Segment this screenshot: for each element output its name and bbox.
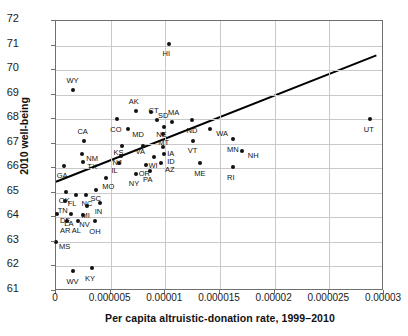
- gridline-horizontal: [56, 95, 382, 96]
- plot-area: HIWYAKSDMACTCONDWAMDNEMTCAVTMNUTNHKSVAIA…: [55, 20, 383, 290]
- data-point: [74, 193, 78, 197]
- data-point-label: IL: [111, 167, 117, 175]
- y-axis-tick-label: 65: [0, 184, 19, 196]
- data-point-label: TX: [87, 163, 97, 171]
- data-point-label: KY: [85, 275, 95, 283]
- data-point-label: OH: [89, 228, 100, 236]
- y-axis-tick-label: 70: [0, 61, 19, 73]
- y-axis-tick: [51, 216, 55, 217]
- data-point-label: GA: [57, 172, 68, 180]
- data-point-label: CA: [77, 128, 87, 136]
- gridline-horizontal: [56, 46, 382, 47]
- data-point: [65, 219, 69, 223]
- data-point: [80, 152, 84, 156]
- y-axis-tick-label: 69: [0, 86, 19, 98]
- data-point-label: NH: [248, 152, 259, 160]
- data-point: [90, 266, 94, 270]
- gridline-vertical: [111, 21, 112, 289]
- data-point-label: PA: [143, 176, 152, 184]
- gridline-horizontal: [56, 266, 382, 267]
- y-axis-tick-label: 72: [0, 12, 19, 24]
- y-axis-title: 2010 well-being: [18, 76, 30, 196]
- y-axis-tick-label: 62: [0, 257, 19, 269]
- gridline-horizontal: [56, 168, 382, 169]
- data-point-label: MS: [59, 243, 70, 251]
- y-axis-tick: [51, 192, 55, 193]
- y-axis-tick: [51, 20, 55, 21]
- data-point: [148, 169, 152, 173]
- data-point: [134, 109, 138, 113]
- y-axis-tick: [51, 45, 55, 46]
- data-point: [69, 212, 73, 216]
- data-point: [62, 164, 66, 168]
- y-axis-tick-label: 64: [0, 208, 19, 220]
- y-axis-tick: [51, 265, 55, 266]
- data-point-label: IN: [95, 208, 103, 216]
- gridline-vertical: [275, 21, 276, 289]
- data-point-label: ID: [167, 158, 175, 166]
- data-point-label: UT: [364, 126, 374, 134]
- data-point-label: MD: [132, 131, 144, 139]
- data-point: [368, 117, 372, 121]
- data-point-label: AL: [72, 227, 81, 235]
- data-point-label: WA: [216, 130, 228, 138]
- gridline-horizontal: [56, 144, 382, 145]
- data-point-label: VT: [188, 147, 198, 155]
- data-point-label: MN: [227, 146, 239, 154]
- data-point-label: VA: [135, 148, 144, 156]
- data-point-label: MA: [168, 109, 179, 117]
- y-axis-tick-label: 68: [0, 110, 19, 122]
- data-point-label: NM: [86, 155, 98, 163]
- data-point-label: AR: [60, 227, 70, 235]
- data-point-label: WV: [66, 278, 78, 286]
- data-point: [55, 212, 59, 216]
- data-point: [162, 125, 166, 129]
- data-point: [231, 137, 235, 141]
- data-point-label: NY: [129, 180, 139, 188]
- data-point: [76, 219, 80, 223]
- gridline-horizontal: [56, 242, 382, 243]
- gridline-horizontal: [56, 119, 382, 120]
- y-axis-tick: [51, 94, 55, 95]
- data-point: [144, 163, 148, 167]
- data-point-label: HI: [163, 50, 171, 58]
- data-point-label: CO: [110, 126, 121, 134]
- y-axis-tick-label: 66: [0, 159, 19, 171]
- y-axis-tick: [51, 143, 55, 144]
- data-point-label: AK: [129, 98, 139, 106]
- gridline-vertical: [329, 21, 330, 289]
- data-point: [240, 149, 244, 153]
- data-point: [84, 193, 88, 197]
- y-axis-tick: [51, 167, 55, 168]
- gridline-horizontal: [56, 217, 382, 218]
- scatter-plot-figure: 2010 well-being Per capita altruistic-do…: [0, 0, 408, 336]
- data-point: [167, 42, 171, 46]
- data-point: [98, 201, 102, 205]
- gridline-horizontal: [56, 70, 382, 71]
- data-point-label: ME: [194, 170, 205, 178]
- y-axis-tick-label: 63: [0, 233, 19, 245]
- y-axis-tick-label: 67: [0, 135, 19, 147]
- data-point-label: CT: [149, 107, 159, 115]
- x-axis-tick-label: 0.00003: [343, 292, 408, 303]
- data-point: [191, 139, 195, 143]
- data-point-label: ND: [187, 127, 198, 135]
- y-axis-tick: [51, 69, 55, 70]
- data-point: [64, 190, 68, 194]
- data-point-label: WY: [66, 77, 78, 85]
- data-point-label: MO: [102, 183, 114, 191]
- y-axis-tick: [51, 118, 55, 119]
- x-axis-title: Per capita altruistic-donation rate, 199…: [55, 312, 385, 324]
- data-point: [162, 152, 166, 156]
- data-point: [85, 204, 89, 208]
- data-point-label: TN: [58, 207, 68, 215]
- gridline-vertical: [220, 21, 221, 289]
- data-point-label: FL: [68, 200, 77, 208]
- y-axis-tick-label: 71: [0, 37, 19, 49]
- data-point-label: AZ: [165, 166, 175, 174]
- gridline-horizontal: [56, 193, 382, 194]
- data-point: [170, 120, 174, 124]
- y-axis-tick: [51, 241, 55, 242]
- data-point-label: RI: [227, 174, 235, 182]
